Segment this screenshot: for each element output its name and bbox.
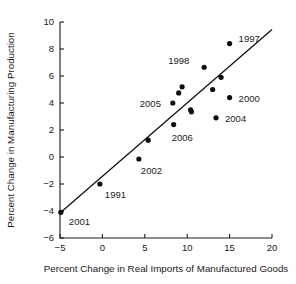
data-point-label: 2001 — [69, 216, 90, 227]
x-tick-label: −5 — [55, 242, 66, 253]
data-point-label: 2002 — [141, 165, 162, 176]
data-point — [170, 100, 175, 105]
chart-canvas: −505101520−6−4−20246810 2001199120022006… — [0, 0, 296, 284]
y-tick-label: 6 — [49, 70, 54, 81]
data-point — [210, 87, 215, 92]
x-axis-title: Percent Change in Real Imports of Manufa… — [44, 263, 289, 274]
data-point — [227, 41, 232, 46]
data-point-label: 1998 — [168, 55, 189, 66]
data-point-label: 2006 — [172, 132, 193, 143]
data-point — [146, 138, 151, 143]
data-point — [202, 65, 207, 70]
x-tick-label: 20 — [267, 242, 278, 253]
y-tick-label: −6 — [43, 232, 54, 243]
x-tick-label: 0 — [100, 242, 105, 253]
data-point — [58, 210, 63, 215]
y-axis-title: Percent Change in Manufacturing Producti… — [5, 32, 16, 228]
y-tick-label: 10 — [43, 16, 54, 27]
x-tick-label: 5 — [142, 242, 147, 253]
data-point — [97, 181, 102, 186]
data-point — [227, 95, 232, 100]
data-point-label: 1991 — [105, 189, 126, 200]
data-point — [219, 75, 224, 80]
y-tick-label: 8 — [49, 43, 54, 54]
data-point — [213, 115, 218, 120]
scatter-chart: −505101520−6−4−20246810 2001199120022006… — [0, 0, 296, 284]
x-tick-label: 15 — [224, 242, 235, 253]
y-tick-label: −4 — [43, 205, 54, 216]
data-point-label: 2000 — [239, 93, 260, 104]
data-point — [171, 122, 176, 127]
data-point — [176, 90, 181, 95]
y-tick-label: 2 — [49, 124, 54, 135]
y-tick-label: 4 — [49, 97, 54, 108]
y-tick-label: 0 — [49, 151, 54, 162]
data-point-label: 1997 — [239, 33, 260, 44]
data-point-label: 2005 — [140, 98, 161, 109]
x-tick-label: 10 — [182, 242, 193, 253]
data-point — [136, 156, 141, 161]
data-point — [189, 109, 194, 114]
data-point-label: 2004 — [225, 113, 246, 124]
data-point — [180, 84, 185, 89]
y-tick-label: −2 — [43, 178, 54, 189]
